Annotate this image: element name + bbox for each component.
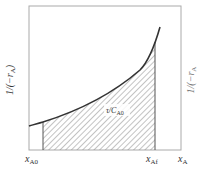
svg-text:1/(−rA: 1/(−rA [185, 67, 198, 94]
x-tick-xaf: xAf [145, 153, 159, 166]
right-partial-label: 1/(−rA [185, 67, 198, 94]
area-label: τ/CA0 [104, 104, 130, 116]
x-tick-xa0: xA0 [24, 153, 39, 166]
levenspiel-diagram: 1/(−rA) 1/(−rA τ/CA0 xA0 xAf xA [0, 0, 199, 172]
svg-text:1/(−rA): 1/(−rA) [4, 64, 17, 95]
x-axis-label: xA [177, 153, 188, 166]
y-axis-label: 1/(−rA) [4, 64, 17, 95]
hatched-area [43, 20, 155, 150]
